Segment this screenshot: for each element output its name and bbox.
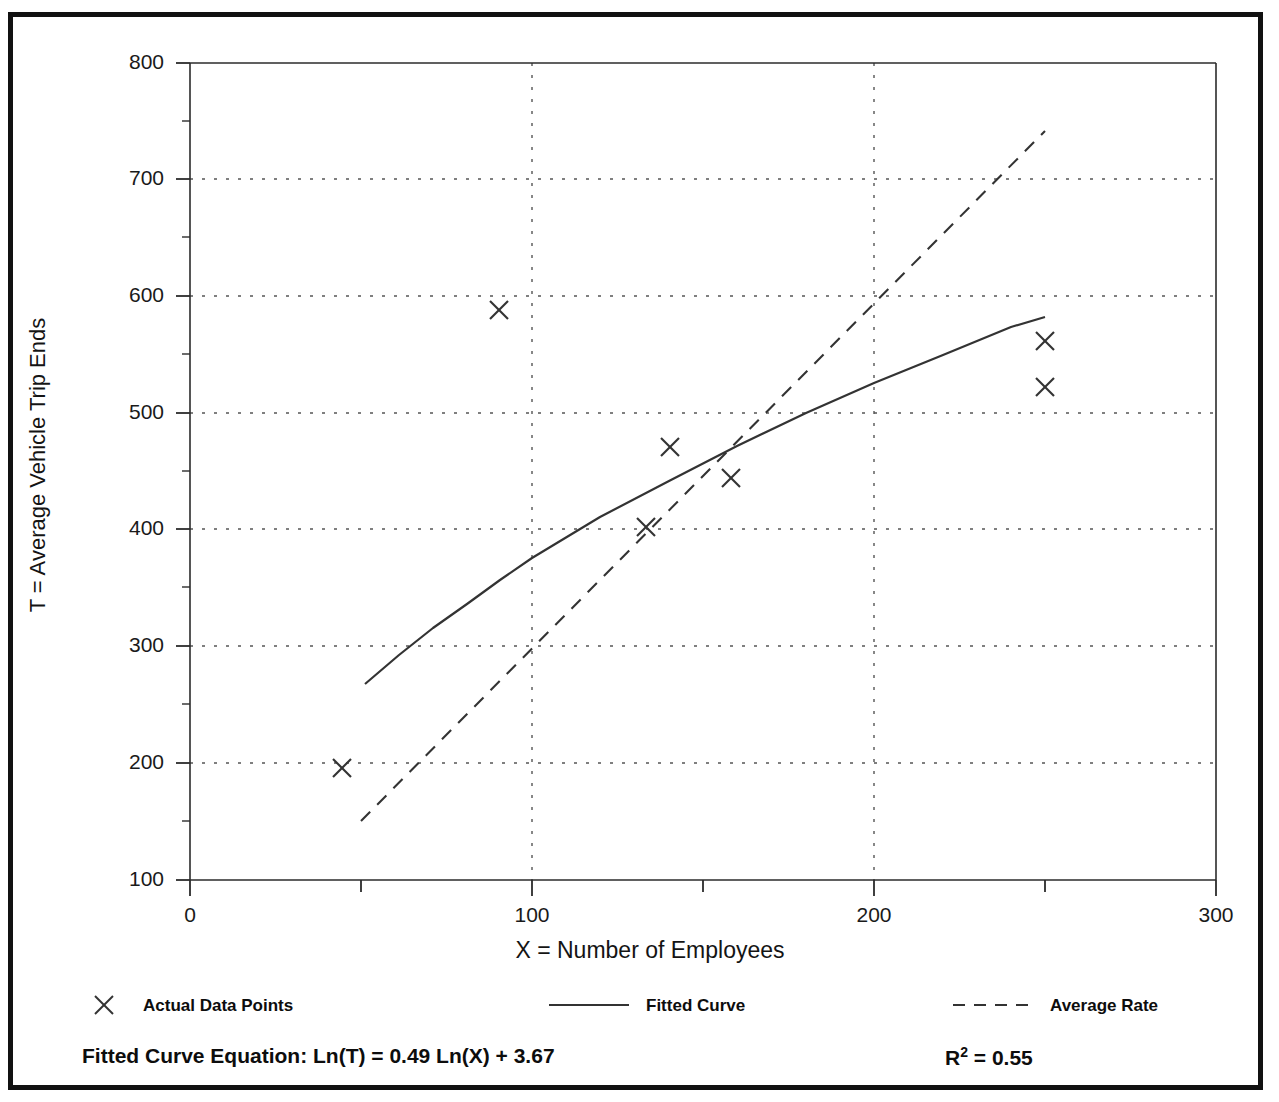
plot-frame	[190, 63, 1216, 880]
y-tick-label-400: 400	[84, 516, 164, 540]
y-tick-label-300: 300	[84, 633, 164, 657]
y-tick-label-500: 500	[84, 400, 164, 424]
r-squared-value: = 0.55	[968, 1046, 1033, 1069]
y-tick-label-700: 700	[84, 166, 164, 190]
y-tick-label-800: 800	[84, 50, 164, 74]
y-tick-label-200: 200	[84, 750, 164, 774]
data-point	[333, 759, 351, 777]
x-tick-label-300: 300	[1186, 903, 1246, 927]
r-squared-exponent: 2	[960, 1044, 968, 1060]
x-tick-label-100: 100	[502, 903, 562, 927]
fitted-curve-line	[365, 317, 1045, 684]
fitted-curve-equation: Fitted Curve Equation: Ln(T) = 0.49 Ln(X…	[82, 1044, 555, 1068]
legend-label-fitted-curve: Fitted Curve	[646, 996, 745, 1016]
legend-marker-x-icon	[95, 996, 113, 1014]
y-tick-label-600: 600	[84, 283, 164, 307]
legend-label-actual-data-points: Actual Data Points	[143, 996, 293, 1016]
r-squared-annotation: R2 = 0.55	[945, 1044, 1033, 1070]
data-point	[1036, 332, 1054, 350]
horizontal-gridlines	[190, 179, 1216, 763]
legend-label-average-rate: Average Rate	[1050, 996, 1158, 1016]
data-point	[722, 469, 740, 487]
x-tick-label-0: 0	[160, 903, 220, 927]
x-axis-ticks	[190, 880, 1216, 896]
vertical-gridlines	[532, 63, 874, 880]
chart-figure: 800 700 600 500 400 300 200 100 0 100 20…	[0, 0, 1279, 1102]
x-axis-title: X = Number of Employees	[330, 937, 970, 964]
y-axis-title: T = Average Vehicle Trip Ends	[25, 295, 51, 635]
r-squared-symbol: R	[945, 1046, 960, 1069]
y-tick-label-100: 100	[84, 867, 164, 891]
x-tick-label-200: 200	[844, 903, 904, 927]
average-rate-line	[361, 131, 1045, 821]
data-point-markers	[333, 301, 1054, 777]
data-point	[1036, 378, 1054, 396]
data-point	[661, 438, 679, 456]
data-point	[637, 518, 655, 536]
y-axis-minor-ticks	[182, 121, 190, 821]
data-point	[490, 301, 508, 319]
